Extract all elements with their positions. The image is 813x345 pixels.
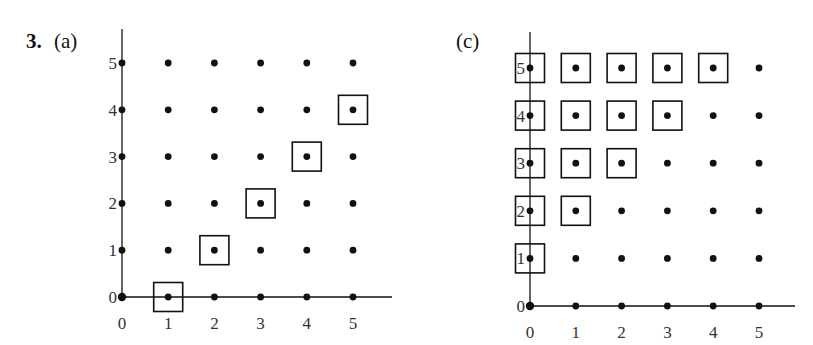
lattice-point	[756, 303, 763, 310]
lattice-point	[257, 153, 264, 160]
lattice-point	[710, 255, 717, 262]
lattice-point	[664, 255, 671, 262]
lattice-point	[165, 106, 172, 113]
lattice-point	[756, 207, 763, 214]
x-tick-label: 1	[572, 323, 581, 342]
x-tick-label: 2	[210, 314, 219, 333]
lattice-point	[756, 112, 763, 119]
lattice-point	[618, 303, 625, 310]
lattice-point	[119, 153, 126, 160]
y-tick-label: 5	[109, 54, 118, 73]
lattice-point	[211, 153, 218, 160]
lattice-point	[211, 200, 218, 207]
lattice-point	[119, 200, 126, 207]
lattice-point	[527, 112, 534, 119]
panel-label: (a)	[54, 29, 77, 53]
y-tick-label: 4	[517, 107, 526, 126]
lattice-point	[664, 207, 671, 214]
lattice-point	[526, 302, 534, 310]
lattice-point	[118, 293, 126, 301]
lattice-point	[257, 200, 264, 207]
lattice-point	[303, 294, 310, 301]
x-tick-label: 5	[349, 314, 358, 333]
lattice-point	[257, 60, 264, 67]
lattice-point	[165, 247, 172, 254]
lattice-point	[119, 247, 126, 254]
lattice-point	[303, 200, 310, 207]
lattice-point	[572, 112, 579, 119]
lattice-point	[350, 106, 357, 113]
lattice-point	[257, 247, 264, 254]
panel-c: (c)012345012345	[456, 29, 795, 342]
lattice-point	[303, 153, 310, 160]
y-tick-label: 1	[109, 241, 118, 260]
lattice-point	[710, 207, 717, 214]
lattice-point	[257, 106, 264, 113]
lattice-point	[211, 60, 218, 67]
x-tick-label: 1	[164, 314, 173, 333]
lattice-point	[710, 160, 717, 167]
y-tick-label: 2	[109, 194, 118, 213]
y-tick-label: 3	[517, 154, 526, 173]
lattice-point	[165, 200, 172, 207]
y-tick-label: 4	[109, 101, 118, 120]
lattice-point	[119, 60, 126, 67]
lattice-point	[350, 294, 357, 301]
y-tick-label: 0	[109, 288, 118, 307]
x-tick-label: 4	[709, 323, 718, 342]
lattice-point	[756, 160, 763, 167]
lattice-point	[350, 153, 357, 160]
lattice-point	[572, 160, 579, 167]
lattice-point	[165, 294, 172, 301]
problem-number: 3.	[26, 29, 42, 53]
lattice-point	[572, 207, 579, 214]
lattice-point	[165, 153, 172, 160]
panel-a: (a)012345012345	[54, 29, 392, 333]
lattice-point	[664, 65, 671, 72]
x-tick-label: 2	[617, 323, 626, 342]
x-tick-label: 3	[256, 314, 265, 333]
lattice-point	[710, 112, 717, 119]
lattice-point	[257, 294, 264, 301]
lattice-point	[756, 65, 763, 72]
y-tick-label: 0	[517, 297, 526, 316]
lattice-point	[303, 106, 310, 113]
lattice-point	[618, 112, 625, 119]
lattice-point	[710, 303, 717, 310]
lattice-point	[303, 247, 310, 254]
panel-label: (c)	[456, 29, 479, 53]
lattice-point	[664, 303, 671, 310]
lattice-point	[350, 200, 357, 207]
lattice-point	[165, 60, 172, 67]
lattice-point	[527, 207, 534, 214]
lattice-point	[618, 255, 625, 262]
lattice-point	[527, 255, 534, 262]
x-tick-label: 0	[118, 314, 127, 333]
lattice-point	[664, 112, 671, 119]
lattice-point	[572, 65, 579, 72]
y-tick-label: 1	[517, 249, 526, 268]
lattice-point	[211, 294, 218, 301]
lattice-point	[211, 106, 218, 113]
lattice-point	[572, 255, 579, 262]
lattice-point	[350, 247, 357, 254]
x-tick-label: 5	[755, 323, 764, 342]
y-tick-label: 5	[517, 59, 526, 78]
lattice-point	[618, 65, 625, 72]
y-tick-label: 2	[517, 202, 526, 221]
lattice-point	[618, 160, 625, 167]
lattice-point	[527, 65, 534, 72]
lattice-point	[756, 255, 763, 262]
lattice-point	[303, 60, 310, 67]
lattice-point	[350, 60, 357, 67]
x-tick-label: 4	[303, 314, 312, 333]
lattice-point	[710, 65, 717, 72]
lattice-point	[527, 160, 534, 167]
lattice-point	[211, 247, 218, 254]
lattice-point	[618, 207, 625, 214]
x-tick-label: 3	[663, 323, 672, 342]
y-tick-label: 3	[109, 148, 118, 167]
lattice-point	[572, 303, 579, 310]
lattice-point	[119, 106, 126, 113]
relation-diagrams: 3. (a)012345012345(c)012345012345	[0, 0, 813, 345]
